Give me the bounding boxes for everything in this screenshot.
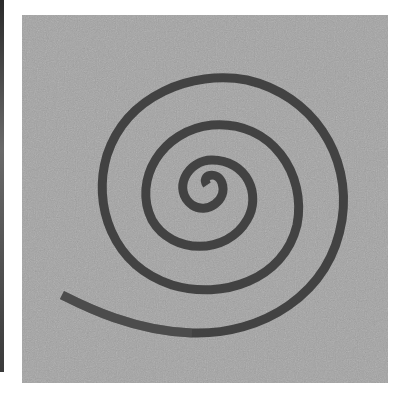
spiral-graphic: [22, 15, 388, 383]
spiral-photo: [22, 15, 388, 383]
left-edge-strip: [0, 0, 4, 372]
